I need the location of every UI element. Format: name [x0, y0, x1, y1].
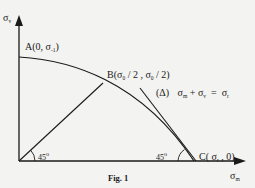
- point-a-close: ): [56, 41, 59, 52]
- point-b-name: B: [107, 69, 114, 80]
- delta-equation: σm + σv = σr: [178, 87, 229, 98]
- angle-c-value: 45: [156, 153, 164, 162]
- x-axis-arrow-icon: [234, 157, 246, 165]
- angle-label-c: 45o: [156, 148, 167, 164]
- angle-arc-c: [178, 150, 185, 162]
- point-c-name: C: [199, 151, 206, 162]
- x-axis-label: σm: [230, 170, 240, 185]
- y-axis-arrow-icon: [15, 15, 23, 26]
- eq-plus: +: [187, 87, 198, 98]
- line-origin-to-b: [19, 83, 103, 161]
- figure-caption: Fig. 1: [108, 172, 128, 184]
- y-axis-subscript: v: [8, 18, 11, 24]
- angle-arc-origin: [31, 150, 35, 161]
- degree-icon: o: [164, 151, 167, 157]
- eq-equals: =: [206, 87, 222, 98]
- y-axis-label: σv: [3, 12, 11, 27]
- angle-label-origin: 45o: [38, 148, 49, 164]
- point-a-open: (0,: [32, 41, 45, 52]
- point-b-label: B(σ0 / 2 , σ0 / 2): [107, 69, 170, 84]
- point-c-label: C( σr , 0): [199, 151, 235, 166]
- degree-icon: o: [46, 151, 49, 157]
- angle-origin-value: 45: [38, 153, 46, 162]
- point-a-label: A(0, σ-1): [25, 41, 59, 56]
- line-delta-label: (Δ) σm + σv = σr: [156, 87, 229, 102]
- x-axis-subscript: m: [235, 176, 239, 182]
- eq-sub-r: r: [227, 93, 229, 99]
- point-b-mid: / 2 ,: [125, 69, 145, 80]
- point-c-close: , 0): [219, 151, 235, 162]
- point-b-close: / 2): [154, 69, 170, 80]
- delta-symbol: (Δ): [156, 87, 169, 98]
